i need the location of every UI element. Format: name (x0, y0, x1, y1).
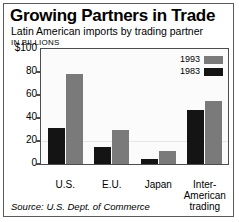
legend-item-1993: 1993 (180, 55, 223, 64)
bar-group (141, 49, 176, 164)
legend-label-1983: 1983 (180, 67, 200, 76)
gray-swatch-icon (204, 56, 223, 64)
bar-1983-us (48, 128, 65, 164)
bar-1983-eu (94, 147, 111, 164)
bar-1993-japan (159, 151, 176, 164)
y-tick-label-100: $100 (15, 43, 37, 53)
black-swatch-icon (204, 68, 223, 76)
x-axis-label-interamericantrading: Inter- American trading (182, 179, 229, 212)
y-axis-labels: $100 80 60 40 20 0 (11, 48, 40, 170)
legend-label-1993: 1993 (180, 55, 200, 64)
bar-1993-interamericantrading (205, 101, 222, 164)
x-axis-label-eu: E.U. (89, 179, 136, 190)
bar-1983-japan (141, 159, 158, 164)
chart-legend: 1993 1983 (180, 55, 223, 76)
bar-1983-interamericantrading (187, 110, 204, 164)
chart-subtitle: Latin American imports by trading partne… (11, 25, 203, 37)
bar-group (48, 49, 83, 164)
bar-1993-us (66, 74, 83, 164)
chart-source: Source: U.S. Dept. of Commerce (11, 201, 150, 212)
bar-group (94, 49, 129, 164)
x-axis-label-japan: Japan (135, 179, 182, 190)
bar-1993-eu (112, 130, 129, 165)
chart-title: Growing Partners in Trade (10, 6, 215, 25)
x-axis-label-us: U.S. (42, 179, 89, 190)
chart-figure: Growing Partners in Trade Latin American… (3, 3, 234, 217)
legend-item-1983: 1983 (180, 67, 223, 76)
plot-wrapper: $100 80 60 40 20 0 1993 1983 (11, 48, 229, 178)
